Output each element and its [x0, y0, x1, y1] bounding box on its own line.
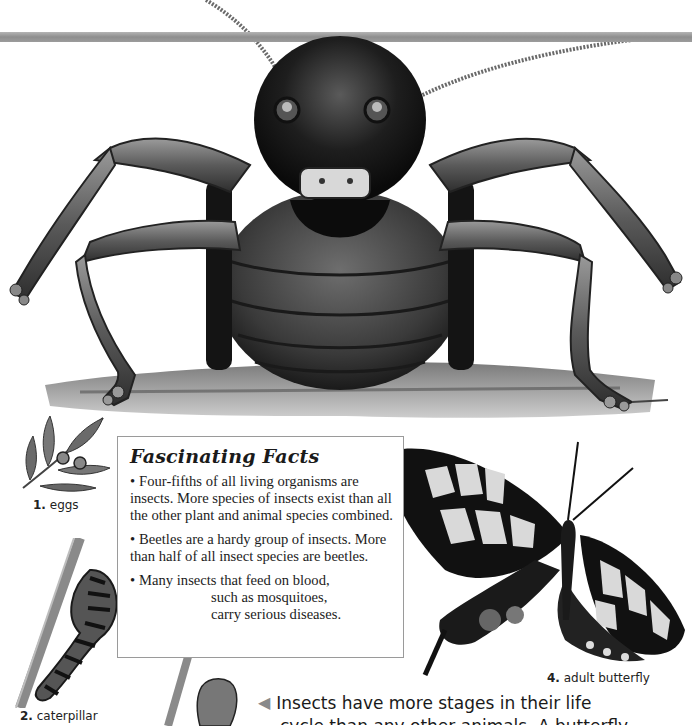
life-cycle-caption: ◀Insects have more stages in their life …: [258, 692, 692, 726]
cricket-body-illustration: [0, 0, 692, 420]
pointer-arrow-icon: ◀: [258, 692, 270, 714]
stage-4-label: 4. adult butterfly: [547, 671, 650, 685]
pupa-chrysalis-icon: [160, 650, 250, 726]
swallowtail-butterfly-icon: [385, 420, 692, 680]
fact-1: •Four-fifths of all living organisms are…: [130, 473, 393, 524]
caterpillar-icon: [10, 538, 120, 708]
fact-3: •Many insects that feed on blood, such a…: [130, 572, 393, 623]
eggs-on-leaf-icon: [18, 408, 113, 493]
fascinating-facts-box: Fascinating Facts •Four-fifths of all li…: [117, 436, 404, 658]
fact-2: •Beetles are a hardy group of insects. M…: [130, 531, 393, 565]
stage-2-label: 2. caterpillar: [20, 709, 98, 723]
book-page: 1. eggs 2. caterpillar: [0, 0, 692, 726]
stage-1-label: 1. eggs: [33, 498, 79, 512]
facts-title: Fascinating Facts: [130, 445, 393, 467]
